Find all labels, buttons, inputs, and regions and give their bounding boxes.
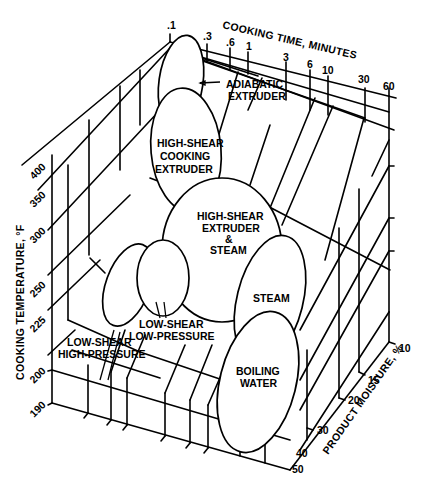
label-ls-hp-2: HIGH-PRESSURE	[58, 348, 146, 360]
time-tick: 6	[307, 58, 313, 70]
temp-tick: 250	[27, 278, 48, 299]
time-tick: .1	[167, 19, 176, 31]
label-hs-cooking-3: EXTRUDER	[155, 163, 213, 175]
label-boiling-2: WATER	[240, 377, 278, 389]
time-tick: 10	[322, 64, 334, 76]
time-tick: 30	[358, 73, 370, 85]
cooking-process-diagram: ADIABATIC EXTRUDER HIGH-SHEAR COOKING EX…	[0, 0, 438, 487]
temp-tick: 400	[27, 160, 48, 181]
moisture-tick: 20	[348, 394, 360, 406]
moisture-tick: 10	[399, 342, 411, 354]
label-ls-lp-1: LOW-SHEAR	[139, 318, 204, 330]
time-axis-label: COOKING TIME, MINUTES	[222, 18, 359, 61]
time-tick: .3	[203, 30, 212, 42]
temperature-axis: COOKING TEMPERATURE, °F 190 200 225 250 …	[14, 160, 52, 419]
time-tick: 60	[383, 80, 395, 92]
moisture-tick: 30	[317, 424, 329, 436]
moisture-tick: 50	[292, 463, 304, 475]
label-adiabatic-2: EXTRUDER	[228, 90, 286, 102]
region-low-shear-low-pressure	[137, 240, 189, 316]
label-adiabatic-1: ADIABATIC	[226, 78, 283, 90]
temp-tick: 200	[27, 364, 48, 385]
temp-tick: 350	[27, 188, 48, 209]
time-tick: .6	[226, 36, 235, 48]
label-hs-cooking-1: HIGH-SHEAR	[157, 137, 224, 149]
label-steam: STEAM	[253, 292, 290, 304]
label-ls-lp-2: LOW-PRESSURE	[129, 330, 215, 342]
moisture-tick: 15	[368, 374, 380, 386]
time-tick: 3	[283, 51, 289, 63]
time-tick: 1	[246, 40, 252, 52]
label-boiling-1: BOILING	[236, 365, 280, 377]
label-hs-steam-1: HIGH-SHEAR	[197, 210, 264, 222]
moisture-tick: 40	[296, 447, 308, 459]
label-hs-steam-4: STEAM	[210, 244, 247, 256]
temp-tick: 300	[27, 224, 48, 245]
temp-tick: 225	[27, 313, 48, 334]
label-ls-hp-1: LOW-SHEAR	[67, 336, 132, 348]
temperature-axis-label: COOKING TEMPERATURE, °F	[14, 224, 26, 380]
label-hs-cooking-2: COOKING	[160, 150, 210, 162]
temp-tick: 190	[27, 398, 48, 419]
